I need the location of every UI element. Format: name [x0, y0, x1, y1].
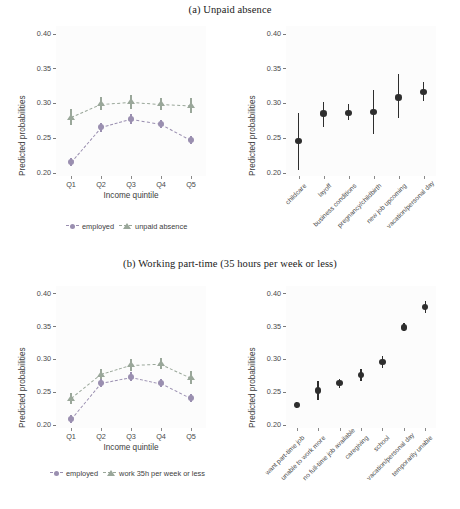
x-axis-tick-label: childcare [260, 182, 307, 229]
legend-item: unpaid absence [119, 222, 187, 231]
x-axis-tick-mark [161, 176, 162, 179]
x-axis-tick-mark [191, 176, 192, 179]
y-axis-tick-mark [53, 326, 56, 327]
data-point-circle [401, 324, 407, 330]
y-axis-tick-mark [53, 425, 56, 426]
x-axis-title: Income quintile [56, 191, 206, 200]
y-axis-title: Predicted probabilities [18, 347, 27, 428]
y-axis-tick-label: 0.35 [26, 322, 51, 331]
y-axis-tick-label: 0.20 [26, 168, 51, 177]
legend-item: work 35h per week or less [103, 469, 205, 478]
data-point-circle [128, 116, 134, 122]
y-axis-tick-mark [53, 293, 56, 294]
x-axis-tick-mark [361, 428, 362, 431]
data-point-triangle [157, 100, 165, 106]
data-point-circle [294, 402, 300, 408]
y-axis-tick-label: 0.25 [256, 133, 281, 142]
data-point-circle [315, 387, 321, 393]
y-axis-title: Predicted probabilities [248, 347, 257, 428]
data-point-circle [158, 121, 164, 127]
panel-b-caption: (b) Working part-time (35 hours per week… [0, 258, 460, 269]
y-axis-tick-mark [53, 173, 56, 174]
x-axis-tick-label: Q3 [117, 180, 145, 189]
y-axis-tick-mark [53, 34, 56, 35]
y-axis-tick-mark [283, 68, 286, 69]
x-axis-tick-mark [425, 428, 426, 431]
data-point-triangle [127, 98, 135, 104]
y-axis-tick-label: 0.30 [256, 98, 281, 107]
y-axis-tick-mark [283, 293, 286, 294]
y-axis-title: Predicted probabilities [248, 95, 257, 176]
plot-background [286, 286, 436, 428]
y-axis-tick-label: 0.30 [26, 98, 51, 107]
y-axis-tick-label: 0.30 [256, 354, 281, 363]
legend-marker-circle [54, 471, 59, 476]
x-axis-tick-label: Q4 [147, 432, 175, 441]
data-point-triangle [187, 102, 195, 108]
data-point-triangle [97, 100, 105, 106]
legend-item: employed [50, 469, 98, 478]
y-axis-tick-label: 0.25 [26, 133, 51, 142]
y-axis-tick-label: 0.35 [26, 64, 51, 73]
y-axis-tick-label: 0.20 [256, 168, 281, 177]
y-axis-tick-mark [283, 359, 286, 360]
y-axis-tick-mark [53, 392, 56, 393]
x-axis-title: Income quintile [56, 443, 206, 452]
y-axis-tick-label: 0.40 [256, 29, 281, 38]
y-axis-tick-label: 0.20 [26, 420, 51, 429]
y-axis-tick-label: 0.40 [26, 289, 51, 298]
y-axis-tick-mark [53, 103, 56, 104]
legend-line [50, 472, 63, 474]
x-axis-tick-mark [324, 176, 325, 179]
legend-marker-triangle [123, 223, 131, 229]
x-axis-tick-label: Q4 [147, 180, 175, 189]
legend-label: employed [66, 469, 98, 478]
y-axis-tick-mark [283, 326, 286, 327]
x-axis-tick-mark [131, 428, 132, 431]
y-axis-tick-label: 0.35 [256, 64, 281, 73]
x-axis-tick-label: Q1 [57, 432, 85, 441]
x-axis-tick-mark [299, 176, 300, 179]
x-axis-tick-label: layoff [285, 182, 332, 229]
data-point-circle [370, 109, 376, 115]
y-axis-tick-label: 0.25 [256, 387, 281, 396]
legend-marker-circle [70, 224, 75, 229]
x-axis-tick-label: Q2 [87, 180, 115, 189]
x-axis-tick-mark [404, 428, 405, 431]
x-axis-tick-label: pregnancy/childbirth [335, 182, 382, 229]
x-axis-tick-mark [101, 176, 102, 179]
y-axis-tick-label: 0.40 [256, 289, 281, 298]
legend-line [66, 225, 79, 227]
x-axis-tick-mark [374, 176, 375, 179]
x-axis-tick-label: Q3 [117, 432, 145, 441]
plot-legend: employedunpaid absence [66, 222, 187, 231]
plot-legend: employedwork 35h per week or less [50, 469, 205, 478]
data-point-circle [188, 137, 194, 143]
x-axis-tick-label: Q5 [177, 432, 205, 441]
y-axis-tick-label: 0.30 [26, 354, 51, 363]
data-point-circle [395, 94, 401, 100]
y-axis-tick-mark [283, 392, 286, 393]
x-axis-tick-mark [297, 428, 298, 431]
y-axis-tick-label: 0.40 [26, 29, 51, 38]
y-axis-tick-label: 0.35 [256, 322, 281, 331]
x-axis-tick-mark [191, 428, 192, 431]
y-axis-tick-mark [283, 425, 286, 426]
data-point-circle [345, 110, 351, 116]
y-axis-tick-mark [53, 68, 56, 69]
y-axis-tick-mark [53, 359, 56, 360]
x-axis-tick-label: vacation/personal day [385, 182, 432, 229]
x-axis-tick-mark [71, 176, 72, 179]
y-axis-tick-mark [283, 103, 286, 104]
data-point-circle [128, 374, 134, 380]
x-axis-tick-mark [101, 428, 102, 431]
legend-label: employed [82, 222, 114, 231]
data-point-triangle [157, 360, 165, 366]
y-axis-tick-label: 0.20 [256, 420, 281, 429]
data-point-circle [420, 89, 426, 95]
data-point-triangle [97, 371, 105, 377]
x-axis-tick-label: business conditions [310, 182, 357, 229]
x-axis-tick-mark [71, 428, 72, 431]
x-axis-tick-mark [382, 428, 383, 431]
data-point-circle [379, 359, 385, 365]
